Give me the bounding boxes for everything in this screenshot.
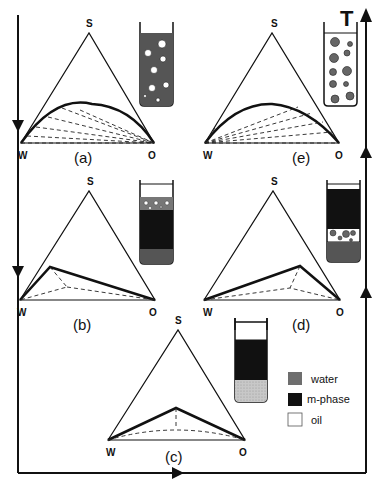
arrow-up-icon bbox=[360, 8, 372, 22]
phase-diagram-figure: T S W O (a) bbox=[0, 0, 380, 485]
temperature-axis-label: T bbox=[340, 6, 354, 31]
panel-label: (a) bbox=[74, 149, 92, 166]
vertex-s: S bbox=[87, 176, 94, 187]
arrow-down-icon bbox=[12, 266, 24, 278]
test-tube bbox=[327, 180, 360, 262]
panel-label: (d) bbox=[292, 316, 310, 333]
vertex-w: W bbox=[203, 150, 213, 161]
panel-e: S W O (e) bbox=[203, 18, 357, 166]
vertex-o: O bbox=[148, 150, 156, 161]
vertex-o: O bbox=[149, 307, 157, 318]
vertex-w: W bbox=[106, 447, 116, 458]
vertex-s: S bbox=[271, 18, 278, 29]
test-tube bbox=[235, 318, 267, 402]
arrow-down-icon bbox=[12, 120, 24, 132]
panel-label: (e) bbox=[292, 149, 310, 166]
panel-b: S W O (b) bbox=[17, 176, 173, 333]
test-tube bbox=[324, 22, 357, 106]
vertex-o: O bbox=[239, 447, 247, 458]
panel-label: (c) bbox=[165, 448, 183, 465]
vertex-o: O bbox=[335, 150, 343, 161]
arrow-right-icon bbox=[172, 467, 184, 479]
legend-label-oil: oil bbox=[311, 414, 322, 426]
vertex-w: W bbox=[18, 150, 28, 161]
panel-a: S W O (a) bbox=[18, 18, 173, 166]
test-tube bbox=[140, 22, 173, 106]
temperature-loop: T bbox=[12, 6, 372, 479]
vertex-w: W bbox=[17, 307, 27, 318]
vertex-s: S bbox=[271, 176, 278, 187]
vertex-s: S bbox=[175, 315, 182, 326]
arrow-up-icon bbox=[360, 146, 372, 158]
legend-swatch-water bbox=[288, 372, 302, 385]
legend-swatch-oil bbox=[288, 413, 302, 426]
vertex-w: W bbox=[203, 307, 213, 318]
legend-label-water: water bbox=[310, 373, 338, 385]
panel-c: S W O (c) bbox=[106, 315, 267, 465]
legend: water m-phase oil bbox=[288, 372, 350, 426]
legend-swatch-m-phase bbox=[288, 393, 302, 406]
vertex-s: S bbox=[86, 18, 93, 29]
panel-label: (b) bbox=[73, 316, 91, 333]
legend-label-m-phase: m-phase bbox=[307, 393, 350, 405]
arrow-up-icon bbox=[360, 286, 372, 298]
test-tube bbox=[140, 180, 173, 264]
vertex-o: O bbox=[336, 307, 344, 318]
panel-d: S W O (d) bbox=[203, 176, 360, 333]
